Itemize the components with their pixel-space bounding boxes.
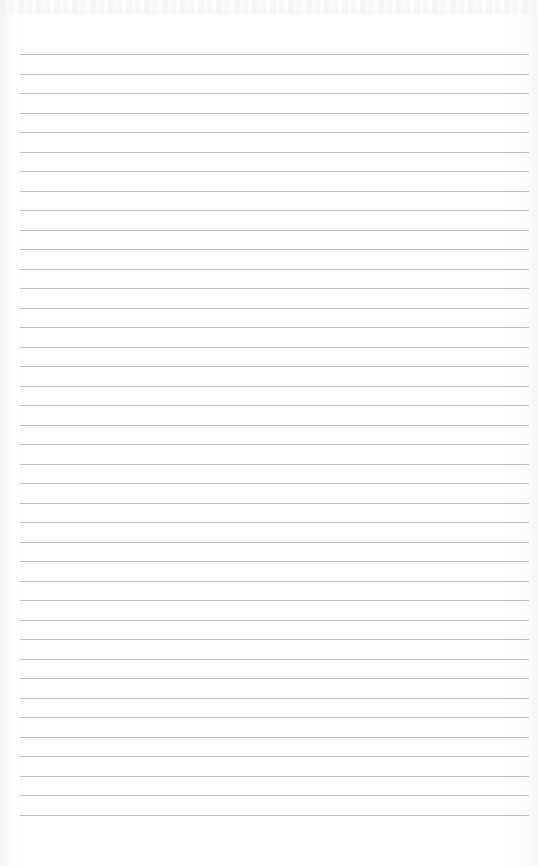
ruled-line	[20, 581, 529, 582]
ruled-line	[20, 132, 529, 133]
bleed-through-text	[0, 0, 538, 14]
ruled-line	[20, 483, 529, 484]
ruled-line	[20, 795, 529, 796]
ruled-line	[20, 678, 529, 679]
ruled-line	[20, 717, 529, 718]
lined-paper-page	[0, 0, 538, 866]
ruled-line	[20, 93, 529, 94]
ruled-line	[20, 191, 529, 192]
ruled-line	[20, 444, 529, 445]
ruled-line	[20, 815, 529, 816]
ruled-line	[20, 542, 529, 543]
ruled-line	[20, 308, 529, 309]
ruled-line	[20, 503, 529, 504]
ruled-line	[20, 600, 529, 601]
ruled-line	[20, 561, 529, 562]
ruled-line	[20, 620, 529, 621]
ruled-line	[20, 210, 529, 211]
ruled-line	[20, 737, 529, 738]
ruled-line	[20, 659, 529, 660]
ruled-line	[20, 425, 529, 426]
ruled-line	[20, 288, 529, 289]
ruled-line	[20, 386, 529, 387]
ruled-line	[20, 74, 529, 75]
ruled-line	[20, 776, 529, 777]
ruled-line	[20, 113, 529, 114]
ruled-line	[20, 347, 529, 348]
ruled-line	[20, 464, 529, 465]
ruled-line	[20, 171, 529, 172]
ruled-line	[20, 249, 529, 250]
ruled-line	[20, 269, 529, 270]
ruled-line	[20, 639, 529, 640]
ruled-line	[20, 54, 529, 55]
ruled-line	[20, 698, 529, 699]
ruled-line	[20, 756, 529, 757]
ruled-line	[20, 366, 529, 367]
ruled-line	[20, 327, 529, 328]
ruled-line	[20, 230, 529, 231]
ruled-line	[20, 522, 529, 523]
ruled-line	[20, 405, 529, 406]
ruled-line	[20, 152, 529, 153]
